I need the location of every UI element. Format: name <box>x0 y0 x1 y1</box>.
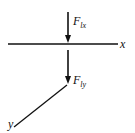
force-flx-label: Flx <box>73 15 86 30</box>
x-axis-label: x <box>120 38 125 50</box>
force-subscript: lx <box>80 21 86 30</box>
force-fly-label: Fly <box>73 74 86 89</box>
y-axis-line <box>14 85 67 127</box>
force-diagram <box>0 0 135 133</box>
y-axis-label: y <box>8 118 13 130</box>
force-subscript: ly <box>80 80 86 89</box>
